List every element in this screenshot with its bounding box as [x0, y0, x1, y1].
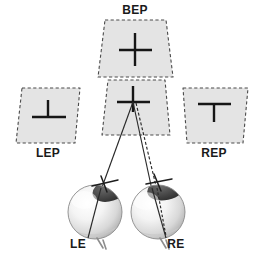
plane-bep: BEP — [98, 3, 173, 77]
eye-right: RE — [131, 174, 187, 251]
left-eye-optic-nerve — [97, 238, 103, 248]
plane-lep: LEP — [16, 88, 80, 160]
plane-bep-label: BEP — [122, 3, 148, 17]
plane-lep-label: LEP — [36, 146, 60, 160]
diagram-canvas: BEP LEP R — [0, 0, 262, 263]
eye-left: LE — [68, 174, 131, 251]
plane-rep: REP — [183, 88, 248, 160]
right-eye-optic-nerve — [160, 238, 166, 248]
eye-left-label: LE — [70, 237, 86, 251]
plane-cyclopean-shape — [102, 80, 170, 135]
eye-right-label: RE — [167, 237, 184, 251]
plane-rep-label: REP — [201, 146, 227, 160]
plane-cyclopean — [102, 80, 170, 135]
eye-perception-diagram: BEP LEP R — [0, 0, 262, 263]
plane-rep-shape — [183, 88, 248, 143]
